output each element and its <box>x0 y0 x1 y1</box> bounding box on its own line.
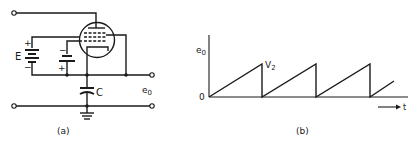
figure-canvas: + E − − + C e0 (a) t e0 0 V2 (b) <box>0 0 416 148</box>
input-terminal-top <box>12 11 16 15</box>
input-terminal-bottom <box>12 104 16 108</box>
origin-label: 0 <box>199 92 205 102</box>
sawtooth-chart: t e0 0 V2 (b) <box>196 35 408 136</box>
battery-plus-label: + <box>24 38 32 48</box>
circuit-diagram: + E − − + C e0 (a) <box>12 11 154 136</box>
sawtooth-waveform <box>209 64 394 97</box>
output-terminal-bottom <box>150 104 154 108</box>
screen-grid-lead <box>106 35 126 75</box>
battery-label: E <box>15 51 21 62</box>
ground-icon <box>80 106 94 119</box>
output-label: e0 <box>142 85 152 97</box>
tube-cathode <box>87 47 108 55</box>
junction-dot <box>65 73 69 77</box>
y-axis-label: e0 <box>196 45 206 57</box>
junction-dot <box>124 73 128 77</box>
capacitor-label: C <box>96 87 103 98</box>
plate-lead <box>16 13 96 28</box>
bottom-rail-upper <box>32 63 150 75</box>
x-axis-label: t <box>403 103 406 112</box>
battery-minus-label: − <box>24 62 32 72</box>
peak-label: V2 <box>265 60 276 72</box>
grid-bias-minus-label: − <box>59 45 67 55</box>
battery-e-icon <box>25 50 39 62</box>
grid-bias-battery-icon <box>59 56 75 61</box>
output-terminal-top <box>150 73 154 77</box>
battery-lead-top <box>32 37 80 48</box>
caption-a: (a) <box>57 126 70 136</box>
caption-b: (b) <box>296 126 309 136</box>
grid-bias-plus-label: + <box>58 63 66 73</box>
time-arrow-icon <box>378 105 401 110</box>
